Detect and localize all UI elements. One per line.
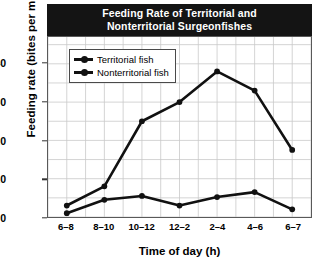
x-tick-label: 8–10 — [93, 221, 114, 232]
chart-figure: Feeding Rate of Territorial and Nonterri… — [0, 0, 324, 270]
legend-label-territorial: Territorial fish — [97, 54, 154, 65]
chart-title-line-2: Nonterritorial Surgeonfishes — [107, 20, 252, 33]
x-tick-label: 4–6 — [247, 221, 263, 232]
x-tick-label: 12–2 — [169, 221, 190, 232]
figure-caption — [10, 262, 314, 270]
chart-title-line-1: Feeding Rate of Territorial and — [102, 7, 257, 20]
y-tick-label: 20 — [0, 135, 6, 147]
legend-item-nonterritorial: Nonterritorial fish — [74, 66, 169, 79]
y-tick-label: 40 — [0, 57, 6, 69]
y-tick-label: 30 — [0, 96, 6, 108]
y-tick-label: 10 — [0, 173, 6, 185]
line-marker-icon — [74, 55, 93, 64]
y-axis-title: Feeding rate (bites per min) — [25, 0, 37, 162]
plot-area: Territorial fish Nonterritorial fish — [47, 36, 312, 218]
legend-label-nonterritorial: Nonterritorial fish — [97, 67, 169, 78]
x-tick-label: 6–7 — [285, 221, 301, 232]
y-tick-label: 0 — [0, 212, 6, 224]
chart-legend: Territorial fish Nonterritorial fish — [69, 49, 176, 83]
x-tick-label: 6–8 — [58, 221, 74, 232]
chart-title-bar: Feeding Rate of Territorial and Nonterri… — [47, 4, 312, 36]
line-marker-icon — [74, 68, 93, 77]
legend-item-territorial: Territorial fish — [74, 53, 169, 66]
x-axis-title: Time of day (h) — [47, 245, 312, 257]
x-tick-label: 10–12 — [128, 221, 154, 232]
x-tick-label: 2–4 — [209, 221, 225, 232]
